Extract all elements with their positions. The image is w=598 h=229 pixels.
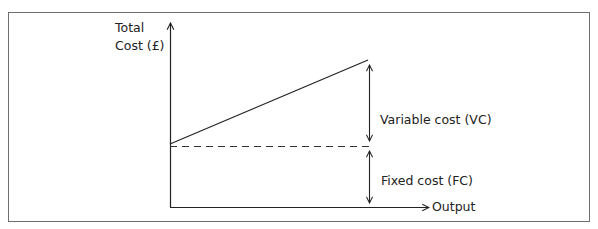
cost-diagram (0, 0, 598, 229)
fixed-cost-label: Fixed cost (FC) (381, 173, 473, 189)
variable-cost-label: Variable cost (VC) (380, 112, 492, 128)
x-axis-label-output: Output (432, 199, 475, 215)
y-axis-label-cost: Cost (£) (115, 38, 164, 54)
y-axis-label-total: Total (115, 20, 144, 36)
total-cost-line (170, 60, 368, 144)
